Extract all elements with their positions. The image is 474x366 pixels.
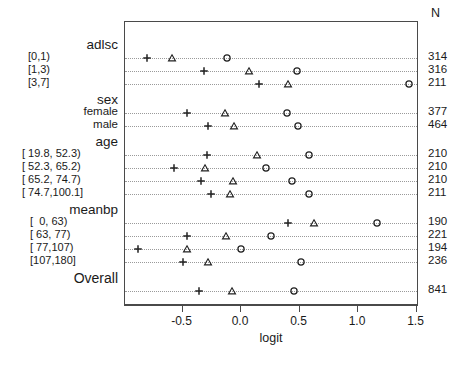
n-value: 190 [428,215,447,227]
marker-plus [197,177,206,186]
x-tick [357,305,358,312]
n-value: 464 [428,118,447,130]
n-value: 314 [428,50,447,62]
marker-circle [304,150,313,159]
n-value: 377 [428,105,447,117]
marker-plus [178,258,187,267]
n-value: 221 [428,228,447,240]
n-value: 210 [428,173,447,185]
marker-plus [143,54,152,63]
level-label: [ 19.8, 52.3) [22,147,81,159]
x-tick-label: 0.0 [232,314,249,328]
marker-plus [283,218,292,227]
marker-circle [261,163,270,172]
marker-triangle [227,286,236,295]
level-label: [ 77,107) [30,241,73,253]
n-value: 841 [428,283,447,295]
marker-plus [204,122,213,131]
group-header-adlsc: adlsc [86,37,118,52]
level-label: [1,3) [28,63,50,75]
row-leader-line [125,249,417,250]
x-tick [299,305,300,312]
n-value: 194 [428,241,447,253]
level-label: [ 74.7,100.1] [22,186,83,198]
marker-triangle [226,190,235,199]
marker-triangle [245,67,254,76]
group-header-age: age [95,134,118,149]
n-column-header: N [431,6,440,20]
row-leader-line [125,181,417,182]
marker-circle [294,122,303,131]
n-value: 211 [428,186,446,198]
n-value: 211 [428,76,446,88]
marker-plus [183,231,192,240]
group-header-overall: Overall [74,270,118,286]
dot-plot-figure: N 31431621137746421021021021119022119423… [0,0,474,366]
plot-area [124,21,418,305]
marker-triangle [283,80,292,89]
level-label: [ 0, 63) [30,215,67,227]
marker-circle [405,80,414,89]
marker-plus [254,80,263,89]
n-value: 236 [428,254,447,266]
marker-circle [267,231,276,240]
marker-triangle [309,218,318,227]
marker-triangle [229,122,238,131]
row-leader-line [125,84,417,85]
x-tick-label: 1.0 [349,314,366,328]
marker-triangle [221,231,230,240]
group-header-meanbp: meanbp [69,202,118,217]
x-axis: -0.50.00.51.01.5 [124,305,418,306]
x-tick [240,305,241,312]
marker-circle [289,286,298,295]
n-value: 316 [428,63,447,75]
marker-triangle [167,54,176,63]
level-label: [ 63, 77) [30,228,70,240]
level-label: male [93,118,118,130]
row-leader-line [125,113,417,114]
level-label: [3,7] [28,76,49,88]
n-value: 210 [428,160,447,172]
marker-circle [288,177,297,186]
level-label: [ 52.3, 65.2) [22,160,81,172]
row-leader-line [125,126,417,127]
marker-circle [282,108,291,117]
x-tick-label: 1.5 [407,314,424,328]
marker-plus [194,286,203,295]
level-label: [0,1) [28,50,50,62]
row-leader-line [125,168,417,169]
marker-triangle [204,258,213,267]
marker-plus [183,108,192,117]
marker-triangle [183,245,192,254]
marker-circle [237,245,246,254]
marker-circle [372,218,381,227]
marker-circle [293,67,302,76]
marker-plus [134,245,143,254]
row-leader-line [125,155,417,156]
row-leader-line [125,194,417,195]
row-leader-line [125,262,417,263]
x-tick [416,305,417,312]
n-value: 210 [428,147,447,159]
marker-circle [304,190,313,199]
row-leader-line [125,71,417,72]
x-tick-label: 0.5 [290,314,307,328]
level-label: female [83,105,118,117]
marker-circle [222,54,231,63]
marker-triangle [253,150,262,159]
marker-plus [206,190,215,199]
x-axis-line [124,305,418,306]
row-leader-line [125,291,417,292]
marker-plus [170,163,179,172]
x-axis-title: logit [124,331,418,345]
level-label: [ 65.2, 74.7) [22,173,81,185]
marker-triangle [200,163,209,172]
n-column: N 31431621137746421021021021119022119423… [424,0,474,366]
marker-plus [203,150,212,159]
level-label: [107,180] [30,254,76,266]
marker-triangle [220,108,229,117]
x-tick-label: -0.5 [171,314,192,328]
x-tick [182,305,183,312]
marker-circle [296,258,305,267]
marker-plus [199,67,208,76]
